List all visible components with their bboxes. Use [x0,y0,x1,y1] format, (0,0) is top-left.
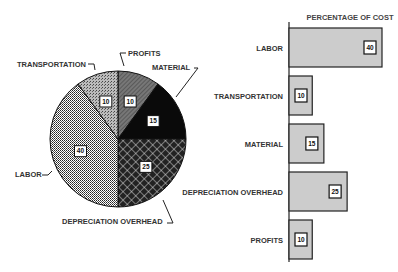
pie-leader-line [42,171,52,175]
pie-chart [50,71,186,207]
pie-value-label-profits: 10 [127,98,135,105]
bar-category-label: MATERIAL [245,140,284,149]
pie-label-labor: LABOR [15,170,42,179]
pie-leader-line [176,68,198,97]
pie-value-label-transportation: 10 [102,98,110,105]
pie-leader-line [88,64,95,70]
bar-category-label: PROFITS [250,236,283,245]
pie-label-profits: PROFITS [128,49,161,58]
pie-value-label-depreciation-overhead: 25 [142,163,150,170]
bar-chart: PERCENTAGE OF COST LABOR40TRANSPORTATION… [182,13,394,262]
bar-value-label: 15 [308,140,316,147]
bar-value-label: 40 [366,44,374,51]
pie-leader-line [163,200,173,223]
bar-chart-title: PERCENTAGE OF COST [307,13,394,22]
bar-category-label: LABOR [256,44,283,53]
pie-label-material: MATERIAL [152,63,191,72]
bar-category-label: TRANSPORTATION [214,92,283,101]
pie-slice-depreciation-overhead [118,139,186,207]
pie-leader-line [120,53,126,66]
pie-value-label-labor: 40 [77,147,85,154]
pie-value-label-material: 15 [150,117,158,124]
bar-value-label: 10 [297,92,305,99]
bar-category-label: DEPRECIATION OVERHEAD [182,188,283,197]
bar-value-label: 25 [332,188,340,195]
chart-canvas: 10PROFITS15MATERIAL25DEPRECIATION OVERHE… [0,0,398,272]
bar-value-label: 10 [297,236,305,243]
pie-label-depreciation-overhead: DEPRECIATION OVERHEAD [62,217,163,226]
pie-label-transportation: TRANSPORTATION [17,60,86,69]
